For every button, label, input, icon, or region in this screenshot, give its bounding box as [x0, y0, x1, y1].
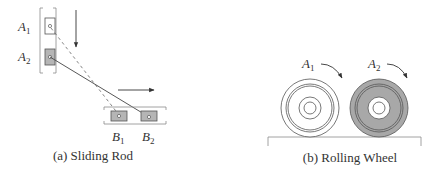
slider-b2 — [141, 111, 157, 121]
ground — [268, 137, 421, 146]
label-a2: A2 — [17, 49, 30, 66]
figure: A1 A2 B1 B2 (a) Sliding Rod — [0, 0, 441, 174]
rod-initial-dashed — [51, 28, 119, 115]
slider-a1 — [45, 18, 55, 34]
wheel-a2 — [350, 79, 408, 137]
caption-rolling-wheel: (b) Rolling Wheel — [303, 150, 398, 165]
panel-rolling-wheel: A1 A2 (b) Rolling Wheel — [268, 56, 421, 165]
clockwise-arrow-icon — [321, 64, 342, 78]
slider-b1 — [111, 111, 127, 121]
wheel-label-a2: A2 — [367, 56, 380, 73]
panel-sliding-rod: A1 A2 B1 B2 (a) Sliding Rod — [17, 8, 166, 163]
caption-sliding-rod: (a) Sliding Rod — [53, 148, 134, 163]
rod-final — [50, 57, 149, 117]
clockwise-arrow-icon — [387, 64, 407, 78]
label-a1: A1 — [17, 19, 30, 36]
wheel-a1 — [281, 79, 339, 137]
label-b2: B2 — [142, 129, 154, 146]
wheel-label-a1: A1 — [301, 56, 314, 73]
label-b1: B1 — [112, 129, 124, 146]
